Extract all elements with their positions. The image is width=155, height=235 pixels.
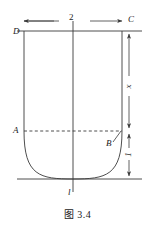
figure-container: 2 D C A B x 1 l 图 3.4 <box>0 0 155 235</box>
b-leader-line <box>113 131 121 142</box>
figure-caption: 图 3.4 <box>0 206 155 221</box>
lower-height-dimension-label: 1 <box>124 152 133 157</box>
point-label-b: B <box>106 139 112 148</box>
upper-height-dimension-label: x <box>124 85 133 89</box>
figure-drawing <box>0 0 155 235</box>
point-label-d: D <box>13 27 20 36</box>
point-label-a: A <box>13 126 19 135</box>
width-dimension-label: 2 <box>69 13 74 22</box>
axis-label-l: l <box>68 188 71 197</box>
point-label-c: C <box>128 15 134 24</box>
